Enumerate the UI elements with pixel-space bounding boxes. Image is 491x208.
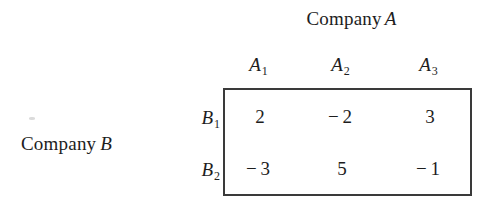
matrix-cell-b2-a3: −1: [397, 158, 459, 180]
company-b-symbol: B: [96, 133, 112, 154]
scan-artifact-speck: [29, 117, 35, 120]
column-header-a1: A1: [228, 54, 288, 76]
column-header-a2-symbol: A: [331, 54, 343, 75]
column-header-a2: A2: [310, 54, 370, 76]
matrix-cell-b2-a3-sign: −: [416, 158, 431, 179]
matrix-cell-b1-a1-value: 2: [255, 106, 265, 127]
matrix-cell-b1-a3-value: 3: [425, 106, 435, 127]
column-header-a3-symbol: A: [419, 54, 431, 75]
matrix-cell-b2-a3-value: 1: [431, 158, 441, 179]
company-a-title: CompanyA: [0, 8, 491, 30]
matrix-cell-b1-a2: −2: [309, 106, 371, 128]
row-header-b1-subscript: 1: [214, 117, 220, 131]
company-b-title: CompanyB: [21, 133, 112, 155]
column-header-a3: A3: [398, 54, 458, 76]
matrix-cell-b1-a3: 3: [397, 106, 459, 128]
matrix-cell-b1-a2-value: 2: [343, 106, 353, 127]
company-a-symbol: A: [382, 8, 397, 29]
payoff-matrix-figure: CompanyA A1 A2 A3 CompanyB B1 B2 2 −2 3 …: [0, 0, 491, 208]
matrix-cell-b2-a2: 5: [309, 158, 371, 180]
matrix-cell-b2-a1: −3: [227, 158, 289, 180]
matrix-cell-b1-a1: 2: [227, 106, 289, 128]
row-header-b1: B1: [193, 107, 219, 129]
row-header-b2-subscript: 2: [214, 169, 220, 183]
row-header-b2-symbol: B: [201, 159, 213, 180]
company-a-title-text: Company: [306, 8, 381, 29]
column-header-a1-subscript: 1: [262, 64, 268, 78]
matrix-cell-b2-a2-value: 5: [337, 158, 347, 179]
column-header-a3-subscript: 3: [432, 64, 438, 78]
matrix-cell-b1-a2-sign: −: [328, 106, 343, 127]
matrix-cell-b2-a1-sign: −: [246, 158, 261, 179]
row-header-b2: B2: [193, 159, 219, 181]
company-b-title-text: Company: [21, 133, 96, 154]
column-header-a1-symbol: A: [249, 54, 261, 75]
column-header-a2-subscript: 2: [344, 64, 350, 78]
row-header-b1-symbol: B: [201, 107, 213, 128]
matrix-cell-b2-a1-value: 3: [261, 158, 271, 179]
